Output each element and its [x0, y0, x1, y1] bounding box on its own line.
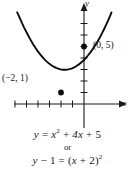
- eq1-plus1: +: [63, 128, 69, 140]
- equation-vertex-form: y − 1 = (x + 2)2: [0, 153, 135, 168]
- eq2-equals: =: [59, 154, 65, 166]
- eq1-term1-exponent: 2: [56, 127, 60, 135]
- y-intercept-point-label: (0, 5): [93, 41, 114, 51]
- vertex-point-label: (−2, 1): [2, 74, 28, 84]
- eq1-equals: =: [42, 128, 48, 140]
- equation-standard-form: y = x2 + 4x + 5: [0, 127, 135, 142]
- eq2-lhs-var: y: [33, 154, 38, 166]
- equation-caption-block: y = x2 + 4x + 5 or y − 1 = (x + 2)2: [0, 127, 135, 168]
- x-axis-label: x: [122, 99, 126, 108]
- coordinate-plane-graph: [0, 0, 135, 128]
- eq1-lhs: y: [34, 128, 39, 140]
- eq2-minus: −: [41, 154, 47, 166]
- eq2-plus: +: [80, 154, 86, 166]
- y-axis-label: y: [85, 0, 89, 8]
- eq1-plus2: +: [86, 128, 92, 140]
- parabola-figure: y x (−2, 1) (0, 5) y = x2 + 4x + 5 or y …: [0, 0, 135, 170]
- eq1-term3: 5: [95, 128, 101, 140]
- eq1-term2: 4x: [72, 128, 83, 140]
- equation-connector: or: [0, 142, 135, 153]
- y-intercept-point-marker: [81, 44, 87, 50]
- eq2-inner-var: x: [72, 154, 77, 166]
- eq2-exponent: 2: [99, 153, 103, 161]
- eq2-lhs-const: 1: [50, 154, 56, 166]
- vertex-point-marker: [58, 90, 64, 96]
